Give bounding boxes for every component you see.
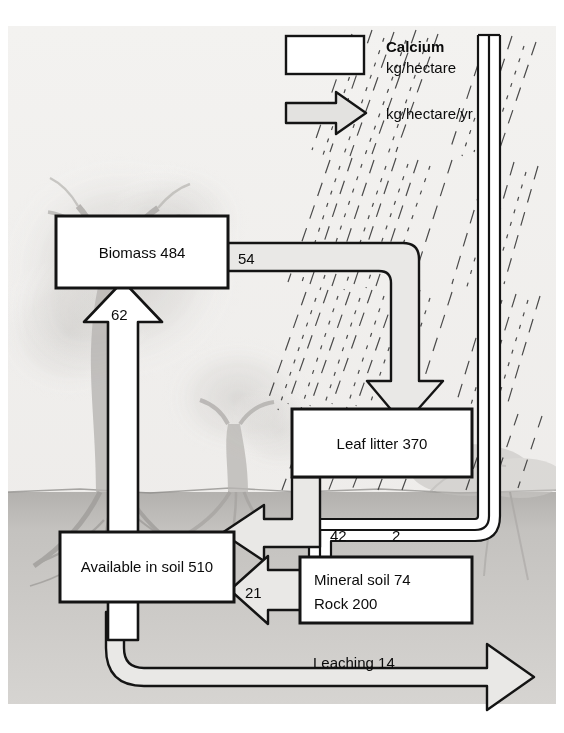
pool-available-soil[interactable]: Available in soil 510 (60, 532, 234, 602)
pool-rock-label: Rock 200 (314, 595, 377, 612)
pool-available-soil-label: Available in soil 510 (81, 558, 213, 575)
pool-biomass[interactable]: Biomass 484 (56, 216, 228, 288)
pool-leaf-litter-label: Leaf litter 370 (337, 435, 428, 452)
legend-box-swatch (286, 36, 364, 74)
flow-label-62: 62 (111, 306, 128, 323)
flow-label-2: 2 (392, 527, 400, 544)
flow-label-42: 42 (330, 527, 347, 544)
flow-label-54: 54 (238, 250, 255, 267)
legend-box-title: Calcium (386, 38, 444, 55)
legend-box-unit: kg/hectare (386, 59, 456, 76)
pool-leaf-litter[interactable]: Leaf litter 370 (292, 409, 472, 477)
pool-mineral-rock[interactable]: Mineral soil 74 Rock 200 (300, 557, 472, 623)
pool-mineral-soil-label: Mineral soil 74 (314, 571, 411, 588)
calcium-cycle-figure: Biomass 484 Leaf litter 370 Available in… (0, 0, 564, 733)
flow-label-21: 21 (245, 584, 262, 601)
flow-label-leaching: Leaching 14 (313, 654, 395, 671)
legend-arrow-unit: kg/hectare/yr (386, 105, 473, 122)
pool-biomass-label: Biomass 484 (99, 244, 186, 261)
